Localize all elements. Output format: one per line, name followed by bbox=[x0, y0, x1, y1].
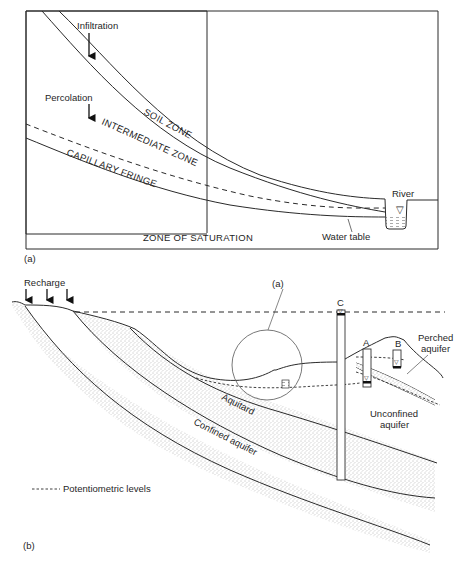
well-c bbox=[337, 310, 345, 480]
perched-aquifer-label-line2: aquifer bbox=[421, 343, 450, 354]
well-a-level-icon: ▽ bbox=[364, 375, 369, 381]
inset-river bbox=[282, 380, 289, 388]
perched-aquifer-leader bbox=[407, 355, 428, 374]
capillary-fringe-top-dashed bbox=[26, 124, 385, 208]
perched-aquifer-label-line1: Perched bbox=[418, 332, 453, 343]
panel-a bbox=[26, 10, 385, 234]
percolation-label: Percolation bbox=[45, 92, 93, 103]
well-b-label: B bbox=[395, 338, 401, 349]
unconfined-aquifer-label-line2: aquifer bbox=[380, 419, 409, 430]
river-water-level-icon: ▽ bbox=[396, 204, 404, 215]
unconfined-aquifer-label-line1: Unconfined bbox=[370, 408, 418, 419]
well-b-level-icon: ▽ bbox=[394, 359, 399, 365]
inset-ref-label: (a) bbox=[272, 278, 284, 289]
panel-a-border bbox=[26, 11, 438, 249]
inset-leader bbox=[268, 289, 283, 330]
river-channel bbox=[385, 199, 438, 229]
well-c-level-icon: ▽ bbox=[338, 308, 343, 314]
legend-potentiometric-label: Potentiometric levels bbox=[63, 483, 151, 494]
well-a bbox=[363, 349, 371, 387]
well-a-label: A bbox=[363, 337, 370, 348]
panel-b-caption: (b) bbox=[23, 540, 35, 551]
capillary-fringe-label: CAPILLARY FRINGE bbox=[65, 147, 158, 190]
water-table-label: Water table bbox=[322, 231, 370, 242]
river-label: River bbox=[392, 188, 414, 199]
zone-of-saturation-label: ZONE OF SATURATION bbox=[143, 232, 253, 243]
intermediate-zone-label: INTERMEDIATE ZONE bbox=[100, 116, 200, 168]
groundwater-diagram: River ▽ Water table Infiltration Percola… bbox=[0, 0, 466, 565]
panel-a-caption: (a) bbox=[24, 253, 36, 264]
recharge-label: Recharge bbox=[24, 277, 65, 288]
soil-zone-bottom-line bbox=[42, 11, 385, 212]
infiltration-label: Infiltration bbox=[77, 20, 118, 31]
well-c-label: C bbox=[337, 297, 344, 308]
